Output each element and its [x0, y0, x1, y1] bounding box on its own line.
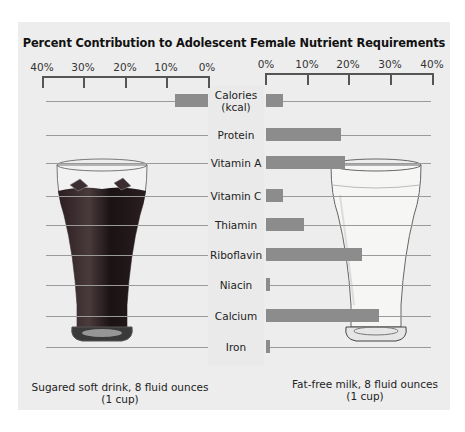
left-axis-tick-label: 10% [154, 61, 177, 73]
category-label: Thiamin [200, 219, 272, 231]
left-axis-tick [166, 76, 168, 88]
category-label-line1: Calcium [200, 310, 272, 322]
milk-bar [266, 128, 341, 141]
left-guide-line [46, 163, 208, 164]
category-label-line1: Vitamin A [200, 157, 272, 169]
milk-caption-line1: Fat-free milk, 8 fluid ounces [280, 378, 450, 390]
soft-drink-caption-line2: (1 cup) [30, 393, 210, 405]
left-guide-line [46, 347, 208, 348]
category-label-line1: Niacin [200, 279, 272, 291]
left-guide-line [46, 135, 208, 136]
right-guide-line [266, 347, 431, 348]
milk-caption-line2: (1 cup) [280, 390, 450, 402]
milk-bar [266, 248, 362, 261]
right-axis-tick-label: 30% [378, 58, 401, 70]
left-guide-line [46, 225, 208, 226]
soft-drink-caption: Sugared soft drink, 8 fluid ounces (1 cu… [30, 381, 210, 405]
left-axis-tick-label: 20% [113, 61, 136, 73]
milk-bar [266, 156, 345, 169]
left-axis-tick-label: 40% [30, 61, 53, 73]
left-axis-tick-label: 0% [199, 61, 216, 73]
category-label: Calories(kcal) [200, 89, 272, 113]
right-axis-tick-label: 20% [336, 58, 359, 70]
right-axis-tick-label: 10% [295, 58, 318, 70]
category-label-line1: Calories [200, 89, 272, 101]
right-axis-tick [432, 73, 434, 85]
category-label-line1: Thiamin [200, 219, 272, 231]
left-axis-tick [125, 76, 127, 88]
category-label-line2: (kcal) [200, 101, 272, 113]
category-label-line1: Iron [200, 341, 272, 353]
category-label: Calcium [200, 310, 272, 322]
soft-drink-caption-line1: Sugared soft drink, 8 fluid ounces [30, 381, 210, 393]
category-label-line1: Vitamin C [200, 190, 272, 202]
category-label: Niacin [200, 279, 272, 291]
right-guide-line [266, 285, 431, 286]
category-label: Protein [200, 129, 272, 141]
left-guide-line [46, 255, 208, 256]
left-axis-tick [83, 76, 85, 88]
milk-caption: Fat-free milk, 8 fluid ounces (1 cup) [280, 378, 450, 402]
right-axis-tick-label: 0% [258, 58, 275, 70]
right-axis-tick-label: 40% [420, 58, 443, 70]
category-label-line1: Protein [200, 129, 272, 141]
left-axis-tick [208, 76, 210, 88]
right-axis-tick [390, 73, 392, 85]
category-label-line1: Riboflavin [200, 249, 272, 261]
right-axis-tick [348, 73, 350, 85]
milk-bar [266, 309, 379, 322]
right-guide-line [266, 196, 431, 197]
left-guide-line [46, 285, 208, 286]
category-label: Vitamin A [200, 157, 272, 169]
left-guide-line [46, 196, 208, 197]
left-axis-tick-label: 30% [71, 61, 94, 73]
left-axis-tick [42, 76, 44, 88]
category-label: Iron [200, 341, 272, 353]
right-guide-line [266, 101, 431, 102]
category-label: Riboflavin [200, 249, 272, 261]
right-axis-tick [265, 73, 267, 85]
cropped-text-strip [0, 0, 465, 8]
left-guide-line [46, 316, 208, 317]
chart-title: Percent Contribution to Adolescent Femal… [18, 36, 450, 50]
category-label: Vitamin C [200, 190, 272, 202]
right-axis-tick [307, 73, 309, 85]
